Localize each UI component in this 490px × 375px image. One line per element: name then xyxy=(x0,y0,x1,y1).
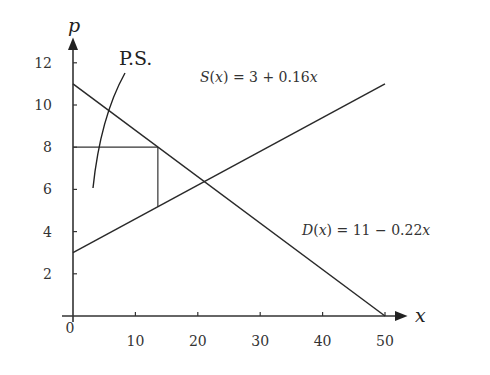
x-tick-label: 10 xyxy=(126,333,144,349)
y-tick-label: 6 xyxy=(43,181,52,197)
x-tick-label: 0 xyxy=(66,320,75,336)
ps-pointer-curve xyxy=(93,73,125,188)
demand-equation-label: D(x) = 11 − 0.22x xyxy=(301,222,430,238)
x-tick-label: 40 xyxy=(314,333,332,349)
x-tick-label: 20 xyxy=(189,333,207,349)
y-axis-label: p xyxy=(68,14,80,36)
x-tick-label: 30 xyxy=(251,333,269,349)
y-tick-label: 8 xyxy=(43,139,52,155)
demand-curve xyxy=(73,84,385,316)
y-tick-label: 4 xyxy=(43,224,52,240)
y-tick-label: 12 xyxy=(34,55,52,71)
curves xyxy=(73,84,385,316)
y-tick-label: 2 xyxy=(43,266,52,282)
x-tick-label: 50 xyxy=(376,333,394,349)
y-tick-label: 10 xyxy=(34,97,52,113)
x-axis-label: x xyxy=(415,304,426,326)
axis-ticks: 0102030405024681012 xyxy=(34,55,394,349)
chart-canvas: p x 0102030405024681012 P.S. S(x) = 3 + … xyxy=(0,0,490,375)
supply-equation-label: S(x) = 3 + 0.16x xyxy=(200,69,318,85)
producer-surplus-guide xyxy=(73,147,158,207)
ps-label: P.S. xyxy=(119,47,152,69)
